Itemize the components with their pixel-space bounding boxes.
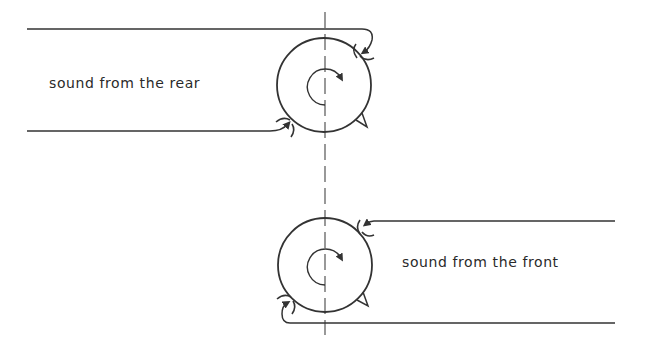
port-flare-icon xyxy=(277,295,291,299)
port-flare-icon xyxy=(276,118,290,122)
port-flare-icon xyxy=(358,220,361,234)
label-sound-from-rear: sound from the rear xyxy=(49,75,200,91)
port-flare-icon xyxy=(291,124,294,137)
capsule-circle xyxy=(277,38,371,132)
front-marker-icon xyxy=(356,113,367,127)
microphone-diagram xyxy=(0,0,647,351)
label-sound-from-front: sound from the front xyxy=(402,254,559,270)
sound-path-top xyxy=(27,29,372,52)
capsule-front xyxy=(277,218,615,323)
rotation-arrow-icon xyxy=(307,249,341,285)
rotation-arrow-icon xyxy=(307,69,341,105)
port-flare-icon xyxy=(292,301,295,314)
sound-path-bottom xyxy=(27,124,288,131)
port-flare-icon xyxy=(362,232,374,236)
sound-path-top xyxy=(366,221,615,224)
sound-path-bottom xyxy=(282,303,615,323)
